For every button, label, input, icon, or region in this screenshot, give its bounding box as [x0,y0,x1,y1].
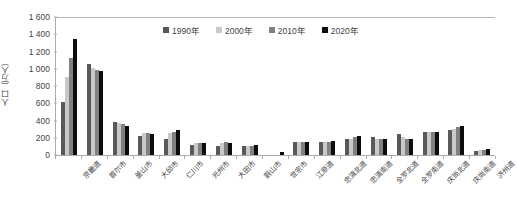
x-axis-tick-mark [107,156,108,159]
legend-swatch-icon [216,27,222,33]
bar [73,39,77,155]
x-axis-category-label: 京畿道 [82,160,103,181]
bar [331,141,335,155]
bar [202,143,206,156]
y-axis-tick-label: 600 [36,98,50,108]
bar-group [288,17,314,155]
legend-item[interactable]: 2010年 [269,24,306,36]
x-axis-tick-mark [262,156,263,159]
x-axis-tick-mark [236,156,237,159]
x-axis-tick-mark [55,156,56,159]
y-axis-tick-label: 200 [36,133,50,143]
legend-swatch-icon [163,27,169,33]
bar-group [263,17,289,155]
x-axis-category-label: 庆尚南道 [472,160,497,185]
x-axis-category-label: 光州市 [211,160,232,181]
x-axis-tick-mark [314,156,315,159]
x-axis-category-label: 首尔市 [108,160,129,181]
x-axis-category-label: 釜山市 [134,160,155,181]
bar-group [366,17,392,155]
y-axis-tick-label: 1 000 [29,64,50,74]
bar [176,130,180,155]
x-axis-category-label: 大田市 [237,160,258,181]
x-axis-category-label: 全罗北道 [395,160,420,185]
legend-label: 1990年 [172,24,200,36]
legend-item[interactable]: 2020年 [322,24,359,36]
y-axis-tick-label: 800 [36,81,50,91]
bar [357,136,361,155]
x-axis-category-label: 江原道 [315,160,336,181]
bar-group [185,17,211,155]
bar-group [237,17,263,155]
x-axis-category-label: 世宗市 [289,160,310,181]
bar-group [159,17,185,155]
bar [254,145,258,155]
x-axis-tick-mark [288,156,289,159]
legend-label: 2000年 [225,24,253,36]
bar [383,139,387,155]
x-axis-tick-mark [340,156,341,159]
bar-group [82,17,108,155]
bar [99,71,103,155]
x-axis-category-label: 忠清南道 [369,160,394,185]
x-axis-category-label: 蔚山市 [263,160,284,181]
x-axis-tick-mark [159,156,160,159]
x-axis-category-label: 济州道 [496,160,517,181]
bar-group [133,17,159,155]
x-axis-tick-mark [184,156,185,159]
bar [228,143,232,156]
x-axis-category-label: 大邱市 [160,160,181,181]
x-axis-category-label: 忠清北道 [343,160,368,185]
legend-item[interactable]: 2000年 [216,24,253,36]
bar-group [211,17,237,155]
bar-group [443,17,469,155]
y-axis-tick-label: 1 400 [29,29,50,39]
bar-groups [56,17,495,155]
x-axis-tick-mark [443,156,444,159]
bar-group [108,17,134,155]
y-axis-tick-label: 1 600 [29,12,50,22]
x-axis-tick-mark [417,156,418,159]
bar-group [392,17,418,155]
bar-group [340,17,366,155]
legend-label: 2010年 [278,24,306,36]
bar [305,142,309,155]
bar-group [314,17,340,155]
x-axis-tick-mark [366,156,367,159]
legend-item[interactable]: 1990年 [163,24,200,36]
chart-legend: 1990年2000年2010年2020年 [163,24,359,36]
x-axis-tick-mark [495,156,496,159]
legend-swatch-icon [269,27,275,33]
legend-label: 2020年 [331,24,359,36]
bar-group [469,17,495,155]
bar [435,132,439,155]
bar-group [418,17,444,155]
y-axis-tick-labels: 02004006008001 0001 2001 4001 600 [16,12,54,160]
plot-area [55,17,495,155]
x-axis-category-label: 仁川市 [186,160,207,181]
bar [125,126,129,155]
y-axis-tick-label: 1 200 [29,47,50,57]
bar-group [56,17,82,155]
y-axis-title: 人口（万人） [1,58,15,106]
x-axis-category-label: 庆尚北道 [446,160,471,185]
y-axis-tick-label: 400 [36,116,50,126]
x-axis-tick-mark [210,156,211,159]
x-axis-category-label: 全罗南道 [421,160,446,185]
x-axis-category-labels: 京畿道首尔市釜山市大邱市仁川市光州市大田市蔚山市世宗市江原道忠清北道忠清南道全罗… [55,160,495,204]
x-axis-tick-mark [469,156,470,159]
bar [409,139,413,155]
bar [150,134,154,155]
legend-swatch-icon [322,27,328,33]
x-axis-tick-mark [133,156,134,159]
y-axis-tick-label: 0 [45,150,50,160]
bar [460,126,464,155]
x-axis-tick-mark [391,156,392,159]
x-axis-tick-mark [81,156,82,159]
